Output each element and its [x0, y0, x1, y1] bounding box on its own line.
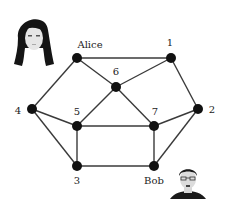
node-label-n6: 6: [113, 66, 119, 77]
node-n5: [72, 121, 82, 131]
edge-n6-n5: [77, 87, 116, 126]
edge-alice-n6: [77, 58, 116, 87]
edge-n1-n2: [171, 58, 198, 109]
node-n3: [72, 161, 82, 171]
graph-diagram: Alice1642573Bob: [0, 0, 229, 213]
node-label-n3: 3: [74, 175, 80, 186]
node-label-n2: 2: [209, 104, 215, 115]
node-label-n7: 7: [152, 106, 158, 117]
edge-alice-n4: [32, 58, 77, 109]
node-label-n1: 1: [167, 37, 173, 48]
node-n7: [149, 121, 159, 131]
node-n4: [27, 104, 37, 114]
node-n6: [111, 82, 121, 92]
node-label-bob: Bob: [144, 175, 164, 186]
edge-n1-n6: [116, 58, 171, 87]
node-label-alice: Alice: [76, 39, 102, 50]
node-n2: [193, 104, 203, 114]
node-alice: [72, 53, 82, 63]
alice-portrait: [14, 19, 54, 66]
node-label-n5: 5: [74, 106, 80, 117]
node-bob: [149, 161, 159, 171]
node-label-n4: 4: [15, 105, 21, 116]
graph-svg: Alice1642573Bob: [0, 0, 229, 213]
bob-portrait: [170, 169, 206, 199]
node-n1: [166, 53, 176, 63]
edge-n6-n7: [116, 87, 154, 126]
